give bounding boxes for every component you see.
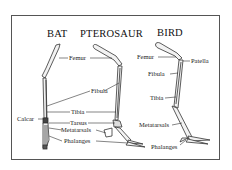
bat-title: BAT [47, 28, 67, 39]
label-bird-metatarsals: Metatarsals [139, 121, 169, 128]
leg-bones-illustration [0, 0, 232, 170]
label-phalanges: Phalanges [64, 137, 90, 144]
label-femur: Femur [69, 54, 86, 61]
bat-leg [42, 44, 60, 149]
label-bird-patella: Patella [191, 57, 209, 64]
label-fibula: Fibula [91, 87, 108, 94]
label-tibia: Tibia [71, 108, 85, 115]
bird-title: BIRD [157, 27, 183, 38]
label-bird-fibula: Fibula [148, 70, 165, 77]
label-tarsus: Tarsus [70, 119, 87, 126]
label-bird-phalanges: Phalanges [151, 143, 177, 150]
label-bird-tibia: Tibia [150, 94, 164, 101]
label-calcar: Calcar [17, 115, 34, 122]
label-bird-femur: Femur [137, 53, 154, 60]
label-metatarsals: Metatarsals [61, 126, 91, 133]
pterosaur-title: PTEROSAUR [80, 28, 143, 39]
